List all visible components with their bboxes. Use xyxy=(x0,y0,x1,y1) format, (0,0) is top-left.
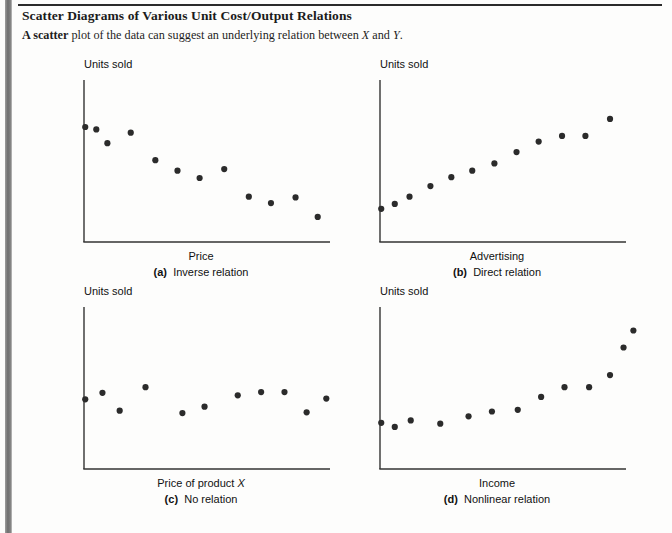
panel-c-plot-area xyxy=(56,299,346,477)
panel-b-y-axis-label: Units sold xyxy=(380,58,428,70)
panel-d-data-point xyxy=(392,424,398,430)
panel-b-data-point xyxy=(536,138,542,144)
panel-b-data-point xyxy=(392,201,398,207)
panel-c-data-point xyxy=(82,396,88,402)
panel-d-caption-label: (d) xyxy=(444,493,458,505)
panel-d-caption: (d) Nonlinear relation xyxy=(352,493,642,505)
panel-a-caption-text: Inverse relation xyxy=(173,266,248,278)
panel-d-data-point xyxy=(515,407,521,413)
panel-a-data-point xyxy=(268,200,274,206)
panel-a-x-axis-label-text: Price xyxy=(188,250,213,262)
panel-a-data-point xyxy=(246,194,252,200)
panel-b-data-point xyxy=(406,194,412,200)
panel-c-data-point xyxy=(258,389,264,395)
panel-a-data-point xyxy=(128,130,134,136)
panel-c-data-point xyxy=(117,408,123,414)
panel-a-y-axis-label: Units sold xyxy=(84,58,132,70)
panel-c-data-point xyxy=(235,392,241,398)
panel-c-caption-text: No relation xyxy=(184,493,237,505)
subtitle-lead: A scatter xyxy=(22,28,68,42)
panel-b-x-axis-label-text: Advertising xyxy=(470,250,524,262)
panel-d-data-point xyxy=(465,413,471,419)
panel-c-data-point xyxy=(281,389,287,395)
panel-d-data-point xyxy=(538,394,544,400)
panel-d-data-point xyxy=(607,372,613,378)
scatter-panel-b: Units sold Advertising (b) Direct relati… xyxy=(352,58,642,273)
panel-c-data-point xyxy=(304,409,310,415)
panel-d-data-point xyxy=(378,420,384,426)
panel-c-x-axis-label-text: Price of product xyxy=(157,477,237,489)
panel-b-data-point xyxy=(378,206,384,212)
panel-b-caption: (b) Direct relation xyxy=(352,266,642,278)
subtitle-variable-y: Y xyxy=(393,28,400,42)
subtitle-text-1: plot of the data can suggest an underlyi… xyxy=(68,28,361,42)
panel-b-data-point xyxy=(427,183,433,189)
panel-b-data-point xyxy=(513,149,519,155)
panel-a-caption: (a) Inverse relation xyxy=(56,266,346,278)
panel-c-caption-label: (c) xyxy=(165,493,178,505)
panel-b-x-axis-label: Advertising xyxy=(352,250,642,262)
panel-c-caption: (c) No relation xyxy=(56,493,346,505)
panel-a-data-point xyxy=(93,126,99,132)
panel-b-data-point xyxy=(491,160,497,166)
panel-c-data-point xyxy=(142,384,148,390)
panel-c-x-axis-label: Price of product X xyxy=(56,477,346,489)
panel-b-data-point xyxy=(582,133,588,139)
panel-d-caption-text: Nonlinear relation xyxy=(464,493,550,505)
panel-d-plot-area xyxy=(352,299,642,477)
panel-a-data-point xyxy=(315,214,321,220)
scatter-panel-a: Units sold Price (a) Inverse relation xyxy=(56,58,346,273)
panel-a-caption-label: (a) xyxy=(154,266,167,278)
panel-d-data-point xyxy=(630,327,636,333)
panel-c-x-axis-label-var: X xyxy=(237,477,244,489)
panel-b-caption-text: Direct relation xyxy=(473,266,541,278)
panel-a-data-point xyxy=(292,194,298,200)
panel-d-x-axis-label-text: Income xyxy=(479,477,515,489)
panel-a-data-point xyxy=(174,168,180,174)
panel-a-data-point xyxy=(197,175,203,181)
panel-d-data-point xyxy=(489,408,495,414)
panel-a-data-point xyxy=(104,140,110,146)
page-canvas: Scatter Diagrams of Various Unit Cost/Ou… xyxy=(0,0,672,533)
page-subtitle: A scatter plot of the data can suggest a… xyxy=(22,28,403,43)
panel-c-data-point xyxy=(201,404,207,410)
subtitle-period: . xyxy=(400,28,403,42)
panel-c-data-point xyxy=(99,390,105,396)
panel-a-plot-area xyxy=(56,72,346,250)
panel-b-data-point xyxy=(559,133,565,139)
panel-a-data-point xyxy=(221,166,227,172)
panel-c-y-axis-label: Units sold xyxy=(84,285,132,297)
panel-b-plot-area xyxy=(352,72,642,250)
panel-d-x-axis-label: Income xyxy=(352,477,642,489)
panel-b-data-point xyxy=(469,168,475,174)
page-title: Scatter Diagrams of Various Unit Cost/Ou… xyxy=(22,8,352,24)
panel-d-data-point xyxy=(620,344,626,350)
panel-d-data-point xyxy=(586,384,592,390)
panel-a-x-axis-label: Price xyxy=(56,250,346,262)
panel-d-data-point xyxy=(437,421,443,427)
panel-d-data-point xyxy=(408,417,414,423)
page-binding-gutter xyxy=(5,0,12,533)
panel-b-data-point xyxy=(448,174,454,180)
panel-b-caption-label: (b) xyxy=(453,266,467,278)
panel-c-data-point xyxy=(179,410,185,416)
scatter-panel-d: Units sold Income (d) Nonlinear relation xyxy=(352,285,642,500)
panel-a-data-point xyxy=(82,124,88,130)
panel-c-data-point xyxy=(323,395,329,401)
panel-d-data-point xyxy=(561,384,567,390)
panel-a-data-point xyxy=(152,157,158,163)
header-rule xyxy=(18,4,662,6)
subtitle-text-2: and xyxy=(369,28,393,42)
scatter-panel-c: Units sold Price of product X (c) No rel… xyxy=(56,285,346,500)
panel-d-y-axis-label: Units sold xyxy=(380,285,428,297)
panel-b-data-point xyxy=(607,116,613,122)
